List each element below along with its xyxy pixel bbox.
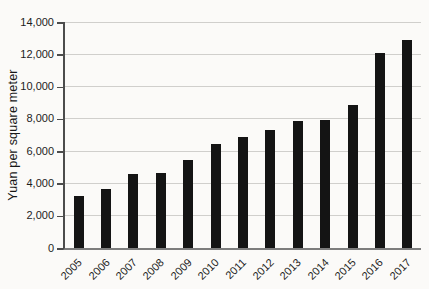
x-tick-label-2017: 2017 xyxy=(387,256,413,282)
x-tick-label-2011: 2011 xyxy=(223,256,248,281)
y-tick-label: 0 xyxy=(0,242,54,255)
x-tick-label-2006: 2006 xyxy=(86,256,112,282)
bar-2012 xyxy=(265,130,275,248)
bar-chart-figure: Yuan per square meter 02,0004,0006,0008,… xyxy=(0,0,429,289)
bar-2005 xyxy=(74,196,84,248)
x-tick-label-2007: 2007 xyxy=(113,256,139,282)
x-tick-label-2015: 2015 xyxy=(332,256,358,282)
x-tick-label-2010: 2010 xyxy=(195,256,221,282)
bar-2011 xyxy=(238,137,248,248)
bar-series xyxy=(65,22,421,248)
bar-column-2011 xyxy=(229,22,256,248)
bar-column-2012 xyxy=(257,22,284,248)
bar-2007 xyxy=(128,174,138,248)
bar-2006 xyxy=(101,189,111,248)
bar-2014 xyxy=(320,120,330,248)
bar-column-2008 xyxy=(147,22,174,248)
bar-column-2010 xyxy=(202,22,229,248)
x-tick-label-2008: 2008 xyxy=(141,256,167,282)
bar-column-2007 xyxy=(120,22,147,248)
bar-2008 xyxy=(156,173,166,248)
y-tick-label: 8,000 xyxy=(0,112,54,125)
y-tick-label: 2,000 xyxy=(0,209,54,222)
bar-column-2016 xyxy=(366,22,393,248)
bar-column-2017 xyxy=(394,22,421,248)
x-tick-label-2012: 2012 xyxy=(250,256,276,282)
x-tick-label-2009: 2009 xyxy=(168,256,194,282)
bar-2013 xyxy=(293,121,303,248)
bar-column-2006 xyxy=(92,22,119,248)
plot-area xyxy=(63,22,421,250)
x-tick-label-2013: 2013 xyxy=(277,256,303,282)
x-tick-label-2005: 2005 xyxy=(58,256,84,282)
bar-2010 xyxy=(211,144,221,248)
y-tick-label: 14,000 xyxy=(0,16,54,29)
bar-2015 xyxy=(348,105,358,248)
x-axis-labels: 2005200620072008200920102011201220132014… xyxy=(63,252,419,289)
bar-column-2009 xyxy=(175,22,202,248)
x-tick-label-2016: 2016 xyxy=(360,256,386,282)
bar-2017 xyxy=(402,40,412,248)
y-tick-label: 4,000 xyxy=(0,177,54,190)
y-tick-label: 10,000 xyxy=(0,80,54,93)
bar-column-2005 xyxy=(65,22,92,248)
x-tick-label-2014: 2014 xyxy=(305,256,331,282)
bar-2016 xyxy=(375,53,385,248)
y-tick-label: 12,000 xyxy=(0,48,54,61)
bar-column-2013 xyxy=(284,22,311,248)
bar-2009 xyxy=(183,160,193,248)
bar-column-2014 xyxy=(312,22,339,248)
y-tick-label: 6,000 xyxy=(0,145,54,158)
bar-column-2015 xyxy=(339,22,366,248)
